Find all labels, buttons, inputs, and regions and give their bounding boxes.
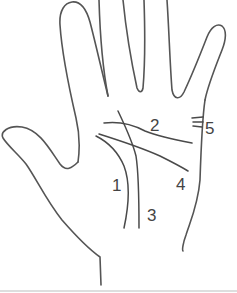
thumb-outline xyxy=(2,127,101,285)
middle-finger-right-outline xyxy=(123,0,145,92)
middle-finger-outline xyxy=(99,0,108,96)
label-5: 5 xyxy=(205,119,214,138)
ring-finger-outline xyxy=(167,0,225,100)
label-1: 1 xyxy=(112,176,121,195)
label-3: 3 xyxy=(147,206,156,225)
label-4: 4 xyxy=(176,175,185,194)
palm-line-3 xyxy=(118,111,139,228)
label-2: 2 xyxy=(150,116,159,135)
palm-line-5-marks xyxy=(192,117,203,127)
palm-lines-diagram: 1 2 3 4 5 xyxy=(0,0,237,293)
